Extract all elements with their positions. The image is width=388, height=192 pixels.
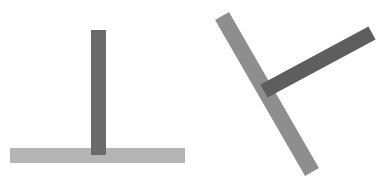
t-illusion-diagram [0,0,388,192]
rotated-t-figure [222,16,372,172]
short-bar [264,33,372,91]
upright-t-figure [10,30,185,156]
